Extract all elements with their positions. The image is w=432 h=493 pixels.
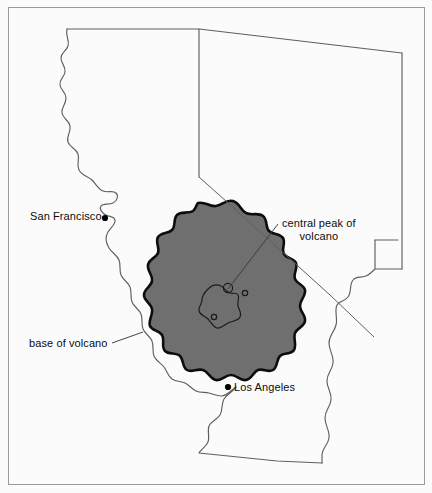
nevada-arizona-border (322, 240, 402, 463)
central-peak-label-line2: volcano (282, 230, 356, 243)
los-angeles-dot (225, 384, 231, 390)
map-canvas (0, 0, 432, 493)
northern-border-line (67, 29, 402, 53)
label-los-angeles: Los Angeles (234, 381, 295, 394)
label-central-peak-of-volcano: central peak of volcano (282, 217, 356, 243)
label-san-francisco: San Francisco (30, 210, 102, 223)
label-base-of-volcano: base of volcano (29, 337, 108, 350)
southern-california-border (199, 387, 322, 463)
san-francisco-dot (102, 215, 108, 221)
leader-line-base-of-volcano (112, 332, 143, 343)
figure-page: San Francisco Los Angeles base of volcan… (0, 0, 432, 493)
central-peak-label-line1: central peak of (282, 217, 356, 229)
